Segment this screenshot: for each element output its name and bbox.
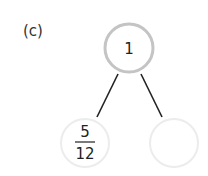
connector-left (97, 74, 118, 117)
part-node-left: 5 12 (61, 119, 109, 167)
fraction-denominator: 12 (75, 145, 94, 163)
part-node-right[interactable] (150, 119, 198, 167)
connector-right (141, 74, 162, 117)
whole-value: 1 (124, 40, 134, 58)
fraction-numerator: 5 (80, 123, 90, 141)
whole-node: 1 (105, 24, 153, 72)
number-bond-diagram: 1 5 12 (0, 0, 208, 176)
